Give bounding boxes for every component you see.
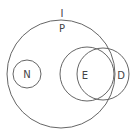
label-i: I [61, 8, 64, 19]
euler-diagram: I P N E D [0, 0, 137, 136]
label-p: P [59, 23, 65, 34]
label-e: E [82, 70, 88, 81]
label-n: N [23, 69, 30, 80]
label-d: D [117, 70, 125, 81]
